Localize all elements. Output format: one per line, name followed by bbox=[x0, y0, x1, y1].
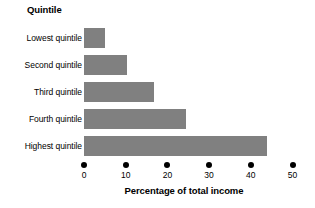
x-axis-title: Percentage of total income bbox=[84, 185, 284, 196]
axis-tick-dot bbox=[290, 162, 296, 168]
axis-tick-label: 40 bbox=[246, 170, 255, 180]
axis-tick-label: 10 bbox=[121, 170, 130, 180]
axis-tick-dot bbox=[81, 162, 87, 168]
axis-tick-dot bbox=[248, 162, 254, 168]
bar-chart: Quintile Lowest quintile Second quintile… bbox=[0, 0, 315, 208]
axis-tick-label: 20 bbox=[163, 170, 172, 180]
axis-tick-label: 30 bbox=[204, 170, 213, 180]
category-label: Highest quintile bbox=[25, 141, 82, 151]
plot-area: Lowest quintile Second quintile Third qu… bbox=[0, 0, 315, 208]
bar-segment bbox=[84, 28, 105, 48]
category-label: Second quintile bbox=[25, 60, 82, 70]
axis-tick-dot bbox=[206, 162, 212, 168]
bar-segment bbox=[84, 136, 267, 156]
bar-segment bbox=[84, 109, 186, 129]
category-label: Fourth quintile bbox=[29, 114, 82, 124]
axis-tick-dot bbox=[164, 162, 170, 168]
bar-segment bbox=[84, 82, 154, 102]
category-label: Lowest quintile bbox=[27, 33, 82, 43]
axis-tick-label: 0 bbox=[82, 170, 87, 180]
category-label: Third quintile bbox=[34, 87, 82, 97]
bar-segment bbox=[84, 55, 127, 75]
axis-tick-label: 50 bbox=[288, 170, 297, 180]
axis-tick-dot bbox=[123, 162, 129, 168]
